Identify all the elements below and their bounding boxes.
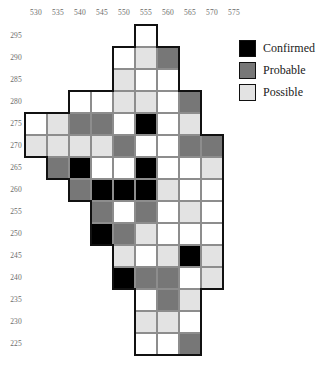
heatmap-cell <box>113 179 135 201</box>
heatmap-cell <box>113 113 135 135</box>
outline-segment <box>200 90 202 114</box>
heatmap-cell <box>157 113 179 135</box>
outline-segment <box>134 310 136 334</box>
y-tick-250: 250 <box>2 229 22 238</box>
heatmap-cell <box>91 91 113 113</box>
y-tick-235: 235 <box>2 295 22 304</box>
outline-segment <box>200 310 202 334</box>
heatmap-cell <box>179 179 201 201</box>
heatmap-cell <box>157 91 179 113</box>
y-tick-275: 275 <box>2 119 22 128</box>
heatmap-cell <box>91 135 113 157</box>
heatmap-cell <box>113 223 135 245</box>
y-tick-265: 265 <box>2 163 22 172</box>
heatmap-cell <box>201 157 223 179</box>
y-tick-260: 260 <box>2 185 22 194</box>
heatmap-cell <box>135 267 157 289</box>
heatmap-cell <box>135 311 157 333</box>
outline-segment <box>222 156 224 180</box>
heatmap-cell <box>157 311 179 333</box>
heatmap-cell <box>69 135 91 157</box>
heatmap-cell <box>157 333 179 355</box>
heatmap-cell <box>201 135 223 157</box>
heatmap-cell <box>135 245 157 267</box>
outline-segment <box>222 266 224 290</box>
heatmap-cell <box>113 47 135 69</box>
heatmap-cell <box>201 267 223 289</box>
outline-segment <box>134 354 158 356</box>
outline-segment <box>90 222 92 246</box>
heatmap-cell <box>179 157 201 179</box>
heatmap-cell <box>179 333 201 355</box>
outline-segment <box>156 354 180 356</box>
heatmap-cell <box>135 289 157 311</box>
heatmap-cell <box>157 47 179 69</box>
outline-segment <box>68 178 70 202</box>
heatmap-cell <box>179 201 201 223</box>
heatmap-cell <box>135 25 157 47</box>
heatmap-chart: 530535540545550555560565570575 295290285… <box>0 0 331 384</box>
outline-segment <box>200 288 224 290</box>
heatmap-cell <box>135 135 157 157</box>
legend-swatch-probable <box>239 62 256 79</box>
x-tick-530: 530 <box>24 8 48 17</box>
outline-segment <box>112 288 136 290</box>
heatmap-cell <box>157 69 179 91</box>
outline-segment <box>90 90 114 92</box>
x-tick-570: 570 <box>200 8 224 17</box>
outline-segment <box>68 90 92 92</box>
outline-segment <box>178 46 180 70</box>
legend-swatch-possible <box>239 84 256 101</box>
heatmap-cell <box>179 245 201 267</box>
heatmap-cell <box>113 201 135 223</box>
heatmap-cell <box>135 179 157 201</box>
legend-swatch-confirmed <box>239 40 256 57</box>
y-tick-255: 255 <box>2 207 22 216</box>
x-tick-565: 565 <box>178 8 202 17</box>
legend-item-probable: Probable <box>239 60 331 81</box>
outline-segment <box>134 288 136 312</box>
heatmap-cell <box>179 223 201 245</box>
outline-segment <box>90 200 92 224</box>
heatmap-cell <box>157 223 179 245</box>
outline-segment <box>24 134 26 158</box>
heatmap-cell <box>91 223 113 245</box>
heatmap-cell <box>179 91 201 113</box>
outline-segment <box>112 68 114 92</box>
heatmap-cell <box>69 179 91 201</box>
heatmap-cell <box>135 113 157 135</box>
outline-segment <box>178 68 180 92</box>
heatmap-cell <box>201 201 223 223</box>
heatmap-cell <box>91 113 113 135</box>
x-tick-560: 560 <box>156 8 180 17</box>
heatmap-cell <box>47 135 69 157</box>
heatmap-cell <box>157 201 179 223</box>
outline-segment <box>222 222 224 246</box>
outline-segment <box>68 200 92 202</box>
heatmap-cell <box>157 157 179 179</box>
heatmap-cell <box>179 289 201 311</box>
heatmap-cell <box>113 157 135 179</box>
y-tick-280: 280 <box>2 97 22 106</box>
y-tick-225: 225 <box>2 339 22 348</box>
heatmap-cell <box>135 69 157 91</box>
legend-label: Possible <box>263 85 303 100</box>
heatmap-cell <box>179 267 201 289</box>
heatmap-cell <box>157 245 179 267</box>
outline-segment <box>134 332 136 356</box>
outline-segment <box>222 134 224 158</box>
outline-segment <box>46 156 48 180</box>
y-tick-285: 285 <box>2 75 22 84</box>
outline-segment <box>24 112 26 136</box>
heatmap-cell <box>113 69 135 91</box>
x-tick-540: 540 <box>68 8 92 17</box>
heatmap-cell <box>179 113 201 135</box>
heatmap-cell <box>201 179 223 201</box>
x-tick-575: 575 <box>222 8 246 17</box>
heatmap-cell <box>47 113 69 135</box>
heatmap-cell <box>113 245 135 267</box>
outline-segment <box>24 156 48 158</box>
outline-segment <box>156 46 180 48</box>
heatmap-cell <box>135 47 157 69</box>
heatmap-cell <box>135 201 157 223</box>
